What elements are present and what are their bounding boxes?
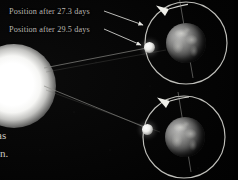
leader-line-27 bbox=[104, 11, 143, 25]
label-position-after-29-days: Position after 29.5 days bbox=[9, 25, 90, 34]
moon-orbit-figure: Position after 27.3 days Position after … bbox=[0, 0, 238, 180]
body-text-fragment-2: in. bbox=[0, 147, 8, 159]
sun-ray-upper bbox=[44, 47, 152, 68]
leader-line-29 bbox=[104, 29, 141, 45]
earth-lower bbox=[165, 117, 205, 157]
moon-upper bbox=[144, 42, 155, 53]
earth-upper bbox=[166, 23, 206, 63]
label-position-after-27-days: Position after 27.3 days bbox=[9, 7, 90, 16]
moon-lower bbox=[142, 124, 153, 135]
sun-ray-lower bbox=[44, 86, 149, 129]
body-text-fragment-1: as bbox=[0, 129, 6, 141]
